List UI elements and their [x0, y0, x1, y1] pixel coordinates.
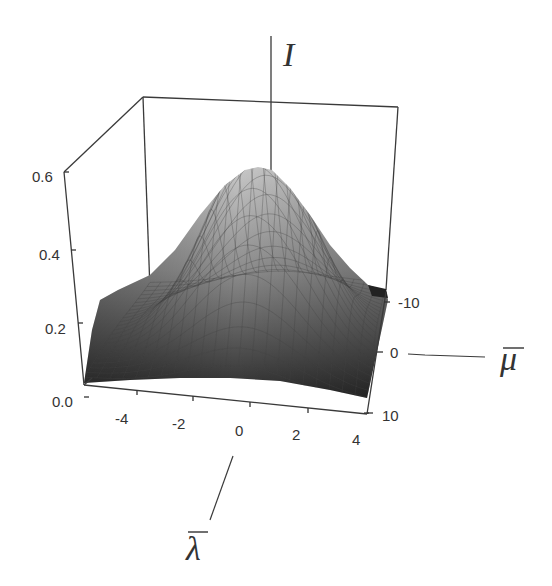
- surface: [84, 138, 388, 404]
- lambda-leader-line: [210, 456, 233, 520]
- z-ticks: 0.6 0.4 0.2 0.0: [32, 168, 89, 410]
- x-tick-4: 4: [352, 431, 360, 448]
- x-axis-title: λ: [185, 530, 208, 567]
- x-tick-2: 2: [292, 426, 300, 443]
- z-axis-title: I: [282, 36, 296, 73]
- z-tick-0-2: 0.2: [45, 320, 66, 337]
- y-axis-title: μ: [499, 340, 524, 377]
- x-tick-neg4: -4: [115, 410, 128, 427]
- x-ticks: -4 -2 0 2 4: [115, 390, 369, 448]
- y-tick-10: 10: [382, 407, 399, 424]
- surface-plot: 0.6 0.4 0.2 0.0 -4 -2 0 2 4 -10 0 10 I μ…: [0, 0, 552, 586]
- y-tick-neg10: -10: [398, 294, 420, 311]
- y-tick-0: 0: [390, 344, 398, 361]
- z-tick-0-4: 0.4: [39, 246, 60, 263]
- z-tick-0-6: 0.6: [32, 168, 53, 185]
- x-tick-neg2: -2: [172, 415, 185, 432]
- x-tick-0: 0: [235, 422, 243, 439]
- z-tick-0-0: 0.0: [52, 393, 73, 410]
- svg-text:λ: λ: [185, 530, 201, 567]
- mu-leader-line: [408, 354, 485, 357]
- svg-text:μ: μ: [499, 340, 517, 377]
